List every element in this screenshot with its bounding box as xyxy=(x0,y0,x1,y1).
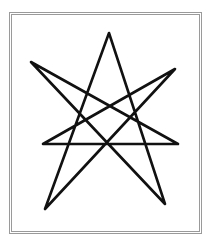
heptagram-star xyxy=(0,0,209,242)
star-outline xyxy=(31,33,178,209)
